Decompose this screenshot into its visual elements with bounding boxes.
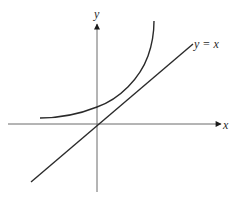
line-y-equals-x [31, 44, 193, 182]
line-label: y = x [194, 38, 219, 50]
x-axis-label: x [223, 119, 228, 131]
y-axis-label: y [94, 8, 99, 20]
function-graph [0, 0, 243, 198]
